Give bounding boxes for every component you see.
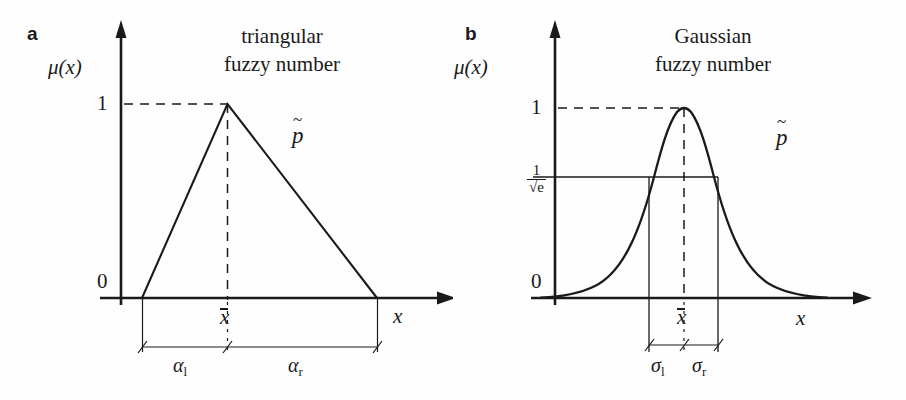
- figure-root: a μ(x) 1 0 triangular fuzzy number ~p x …: [0, 0, 906, 400]
- panel-letter-b: b: [465, 24, 477, 43]
- x-axis-label-b: x: [796, 308, 805, 329]
- y-tick-one-b: 1: [531, 97, 542, 118]
- fraction-numerator-b: 1: [527, 163, 546, 179]
- x-axis-label-a: x: [393, 306, 402, 327]
- panel-title-line2-b: fuzzy number: [613, 54, 813, 75]
- panel-a-triangular-fuzzy-number: a μ(x) 1 0 triangular fuzzy number ~p x …: [0, 0, 453, 400]
- span-left-sub-a: l: [184, 364, 188, 379]
- y-tick-zero-b: 0: [531, 271, 542, 292]
- panel-title-line1-b: Gaussian: [613, 26, 813, 47]
- span-left-label-a: αl: [173, 355, 187, 375]
- panel-title-line1-a: triangular: [182, 26, 382, 47]
- curve-symbol-p-tilde-a: ~p: [292, 124, 304, 147]
- span-right-label-b: σr: [692, 355, 706, 375]
- y-tick-one-a: 1: [97, 93, 108, 114]
- tilde-accent-a: ~: [293, 111, 302, 128]
- fraction-denominator-b: √e: [527, 179, 546, 196]
- span-left-sub-b: l: [661, 364, 665, 379]
- y-axis-b: [550, 20, 561, 305]
- triangular-membership-curve: [142, 104, 377, 298]
- span-right-label-a: αr: [288, 355, 303, 375]
- y-axis-label-b: μ(x): [454, 57, 488, 78]
- center-value-label-a: x: [220, 307, 229, 328]
- span-right-sub-b: r: [702, 364, 706, 379]
- panel-letter-a: a: [27, 24, 38, 43]
- y-axis-label-a: μ(x): [48, 57, 82, 78]
- y-tick-one-over-sqrt-e-b: 1 √e: [527, 163, 546, 196]
- panel-title-line2-a: fuzzy number: [182, 54, 382, 75]
- span-bar-a: [138, 341, 382, 353]
- span-left-label-b: σl: [651, 355, 665, 375]
- curve-symbol-p-tilde-b: ~p: [776, 126, 788, 149]
- y-axis-a: [116, 20, 127, 305]
- panel-b-gaussian-fuzzy-number: b μ(x) 1 1 √e 0 Gaussian fuzzy number ~p…: [453, 0, 906, 400]
- tilde-accent-b: ~: [777, 113, 786, 130]
- x-axis-a: [100, 292, 453, 305]
- center-value-label-b: x: [677, 307, 686, 328]
- span-right-sub-a: r: [299, 364, 303, 379]
- y-tick-zero-a: 0: [97, 271, 108, 292]
